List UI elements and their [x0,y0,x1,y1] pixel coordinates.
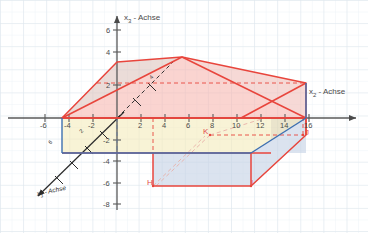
figure-canvas: x2 - Achse x3 - Achse x1 - Achse -6 -4 -… [0,0,368,233]
box-front-face [62,118,271,153]
coordinate-system-plot [0,0,368,233]
